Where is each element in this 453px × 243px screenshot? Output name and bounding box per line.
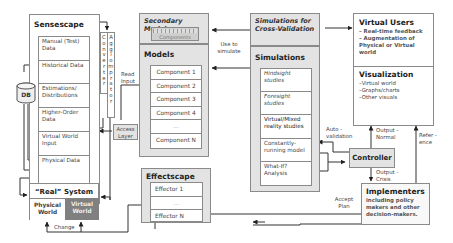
virtual-world-cell: Virtual World <box>65 198 99 220</box>
sensescape-list: Manual (Test) Data Historical Data Estim… <box>38 36 90 200</box>
simulation-item: Hindsight studies <box>261 69 311 92</box>
implementers-title: Implementers <box>366 187 425 196</box>
secondary-models-panel: Secondary Models Components <box>139 13 209 44</box>
virtual-users-panel: Virtual Users – Real-time feedback – Aug… <box>353 13 434 126</box>
simulation-item: Virtual/Mixed reality studies <box>261 115 311 139</box>
simulation-item: Foresight studies <box>261 92 311 115</box>
effectscape-title: Effectscape <box>146 172 195 181</box>
cross-validation-panel: Simulations for Cross-Validation <box>250 13 320 46</box>
implementers-panel: Implementers including policy makers and… <box>361 183 430 225</box>
secondary-components-box: Components <box>151 27 199 41</box>
components-ticks <box>153 29 197 33</box>
virtual-users-bullet: – Real-time feedback <box>359 28 422 35</box>
sensescape-item: Higher-Order Data <box>39 108 89 132</box>
effectscape-panel: Effectscape Effector 1 ... Effector N <box>141 168 211 223</box>
divider <box>354 66 433 67</box>
effector-item: Effector 1 <box>151 183 202 197</box>
db-label: DB <box>15 91 37 98</box>
sensescape-item: Estimations/ Distributions <box>39 84 89 108</box>
sensescape-title: Sensescape <box>34 20 84 29</box>
visualization-bullet: –Virtual world <box>359 80 396 87</box>
output-normal-label: Output - Normal <box>376 127 400 141</box>
simulations-panel: Simulations Hindsight studies Foresight … <box>250 46 320 192</box>
effector-item: Effector N <box>151 210 202 224</box>
reference-label: Refer - ence <box>419 132 439 146</box>
effector-list: Effector 1 ... Effector N <box>150 182 203 222</box>
effector-item: ... <box>151 197 202 211</box>
sensescape-item: Manual (Test) Data <box>39 37 89 61</box>
physical-world-label: Physical World <box>30 199 65 216</box>
models-component-list: Component 1 Component 2 Component 3 Comp… <box>150 65 202 149</box>
output-crisis-label: Output - Crisis <box>376 169 400 183</box>
model-component: Component 2 <box>151 80 201 94</box>
virtual-users-title: Virtual Users <box>359 18 414 27</box>
visualization-title: Visualization <box>359 70 413 79</box>
secondary-components-label: Components <box>152 34 198 41</box>
real-system-panel: “Real” System Physical World Virtual Wor… <box>29 183 99 220</box>
model-component: ... <box>151 120 201 134</box>
access-layer-box: Access Layer <box>113 124 138 140</box>
virtual-users-bullet: – Augmentation of Physical or Virtual wo… <box>359 35 419 56</box>
change-label: Change <box>54 224 75 231</box>
model-component: Component 3 <box>151 93 201 107</box>
controller-title: Controller <box>350 149 394 167</box>
auto-validation-label: Auto - validation <box>326 126 350 140</box>
simulations-title: Simulations <box>255 53 305 62</box>
model-component: Component 4 <box>151 107 201 121</box>
model-component: Component 1 <box>151 66 201 80</box>
model-component: Component N <box>151 134 201 148</box>
real-system-title: “Real” System <box>35 188 93 196</box>
sensescape-item: Virtual World Input <box>39 132 89 156</box>
physical-world-cell: Physical World <box>30 198 65 220</box>
agglomerator-strip: Agglomprator <box>107 32 115 118</box>
implementers-text: including policy makers and other decisi… <box>366 197 428 218</box>
virtual-world-label: Virtual World <box>65 198 99 215</box>
cross-validation-title: Simulations for Cross-Validation <box>255 17 317 33</box>
use-to-simulate-label: Use to simulate <box>216 41 242 55</box>
models-panel: Models Component 1 Component 2 Component… <box>139 44 209 157</box>
database-icon: DB <box>15 82 37 104</box>
sensescape-item: Physical Data <box>39 156 89 180</box>
models-title: Models <box>144 50 174 59</box>
simulation-item: Constantly-running model <box>261 139 311 162</box>
visualization-bullet: –Graphs/charts <box>359 87 400 94</box>
sensescape-item: Historical Data <box>39 61 89 84</box>
controller-box: Controller <box>349 148 395 168</box>
visualization-bullet: –Other visuals <box>359 94 397 101</box>
agglomerator-label: Agglomprator <box>108 33 114 105</box>
simulation-item: What-If? Analysis <box>261 162 311 186</box>
simulations-list: Hindsight studies Foresight studies Virt… <box>260 68 312 186</box>
access-layer-label: Access Layer <box>114 125 137 139</box>
accept-plan-label: Accept Plan <box>334 196 354 210</box>
sensescape-panel: Sensescape Manual (Test) Data Historical… <box>29 14 100 204</box>
